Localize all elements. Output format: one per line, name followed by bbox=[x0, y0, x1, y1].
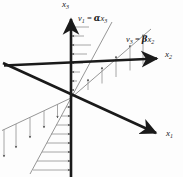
equation-label-v3: v3 = βx2 bbox=[126, 35, 154, 45]
profile-line-v1-lower bbox=[30, 98, 71, 174]
axes-diagram-canvas bbox=[0, 0, 183, 177]
vector-field-figure: x3 x2 x1 v1 = αx3 v3 = βx2 bbox=[0, 0, 183, 177]
axis-label-x3: x3 bbox=[62, 0, 69, 10]
hatch-group-left-profile bbox=[4, 105, 58, 158]
axis-label-x1: x1 bbox=[166, 129, 173, 139]
axis-line-x2-true bbox=[4, 60, 156, 128]
hatch-group-lower-profile bbox=[33, 107, 70, 170]
axis-label-x2: x2 bbox=[165, 50, 172, 60]
equation-label-v1: v1 = αx3 bbox=[78, 14, 107, 24]
axis-line-x2 bbox=[4, 59, 157, 66]
profile-line-v3-left bbox=[2, 98, 71, 131]
axis-line-x1 bbox=[3, 63, 156, 133]
